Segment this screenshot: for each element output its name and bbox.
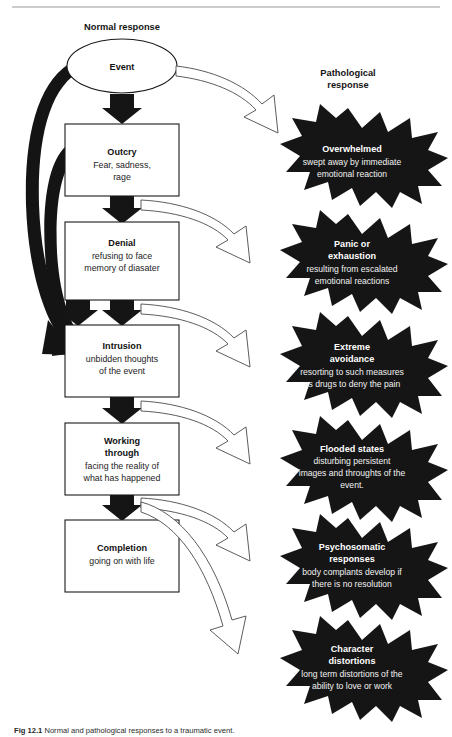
stage-box-denial <box>65 222 179 300</box>
stage-sub-completion-line1: going on with life <box>89 556 155 566</box>
flow-arrow-outcry-to-denial <box>102 196 142 224</box>
burst-flooded-states: Flooded states disturbing persistent ima… <box>280 416 448 522</box>
path-arrow-event-to-overwhelmed <box>176 66 278 133</box>
burst-title-character-line2: distortions <box>329 656 376 666</box>
stage-sub-denial-line1: refusing to face <box>92 251 152 261</box>
burst-sub-extreme-line1: resorting to such measures <box>300 367 404 377</box>
burst-extreme-avoidance: Extreme avoidance resorting to such meas… <box>280 312 448 418</box>
burst-title-panic-line1: Panic or <box>334 239 370 249</box>
pathological-response-heading-line2: response <box>327 80 368 90</box>
burst-psychosomatic-responses: Psychosomatic responses body complants d… <box>280 514 448 620</box>
figure-root: Normal response Pathological response Ev… <box>0 0 452 737</box>
stage-sub-working-through-line1: facing the reality of <box>85 461 159 471</box>
stress-response-diagram: Normal response Pathological response Ev… <box>0 0 452 737</box>
stage-sub-intrusion-line1: unbidden thoughts <box>86 354 159 364</box>
burst-title-panic-line2: exhaustion <box>328 251 376 261</box>
flow-arrow-intrusion-to-working-through <box>102 397 142 424</box>
stage-sub-intrusion-line2: of the event <box>99 366 146 376</box>
stage-title-intrusion: Intrusion <box>103 341 142 351</box>
burst-title-flooded-states: Flooded states <box>320 444 384 454</box>
pathological-response-heading-line1: Pathological <box>320 68 375 78</box>
burst-title-psychosomatic-line2: responses <box>329 554 375 564</box>
burst-sub-flooded-line2: images and throughts of the <box>299 468 406 478</box>
burst-sub-psychosomatic-line2: there is no resolution <box>312 579 392 589</box>
burst-character-distortions: Character distortions long term distorti… <box>280 616 448 722</box>
burst-shape-overwhelmed <box>280 104 448 208</box>
burst-title-psychosomatic-line1: Psychosomatic <box>319 542 386 552</box>
stage-title-working-through-line1: Working <box>104 436 140 446</box>
flow-arrow-working-through-to-completion <box>102 495 142 521</box>
burst-title-extreme-line2: avoidance <box>330 354 374 364</box>
stage-title-working-through-line2: through <box>105 448 139 458</box>
burst-title-extreme-line1: Extreme <box>334 342 370 352</box>
figure-caption-label: Fig 12.1 <box>14 726 42 735</box>
stage-sub-outcry-line2: rage <box>113 172 131 182</box>
stage-sub-working-through-line2: what has happened <box>83 473 161 483</box>
burst-sub-panic-line2: emotional reactions <box>315 276 390 286</box>
burst-sub-flooded-line3: event. <box>340 480 363 490</box>
burst-sub-psychosomatic-line1: body complants develop if <box>302 567 402 577</box>
figure-caption-text: Normal and pathological responses to a t… <box>44 726 234 735</box>
figure-caption: Fig 12.1 Normal and pathological respons… <box>14 726 444 737</box>
burst-title-overwhelmed: Overwhelmed <box>322 144 382 154</box>
burst-sub-flooded-line1: disturbing persistent <box>314 456 392 466</box>
stage-sub-outcry-line1: Fear, sadness, <box>93 160 151 170</box>
stage-box-working-through <box>65 423 179 495</box>
burst-sub-extreme-line2: as drugs to deny the pain <box>304 379 401 389</box>
burst-sub-overwhelmed-line1: swept away by immediate <box>303 157 402 167</box>
event-label: Event <box>110 62 135 72</box>
burst-sub-panic-line1: resulting from escalated <box>306 264 397 274</box>
stage-title-completion: Completion <box>97 543 147 553</box>
stage-title-denial: Denial <box>108 238 135 248</box>
flow-arrow-denial-to-intrusion <box>102 300 142 326</box>
stage-sub-denial-line2: memory of diasater <box>84 263 159 273</box>
burst-title-character-line1: Character <box>331 644 374 654</box>
burst-shape-panic-or-exhaustion <box>280 210 448 314</box>
stage-title-outcry: Outcry <box>107 147 137 157</box>
flow-arrow-event-to-outcry <box>102 94 142 124</box>
burst-sub-character-line1: long term distortions of the <box>301 669 402 679</box>
burst-panic-or-exhaustion: Panic or exhaustion resulting from escal… <box>280 210 448 314</box>
burst-sub-overwhelmed-line2: emotional reaction <box>317 169 387 179</box>
normal-response-heading: Normal response <box>84 22 160 32</box>
burst-sub-character-line2: ability to love or work <box>312 681 393 691</box>
burst-shape-extreme-avoidance <box>280 312 448 418</box>
burst-overwhelmed: Overwhelmed swept away by immediate emot… <box>280 104 448 208</box>
